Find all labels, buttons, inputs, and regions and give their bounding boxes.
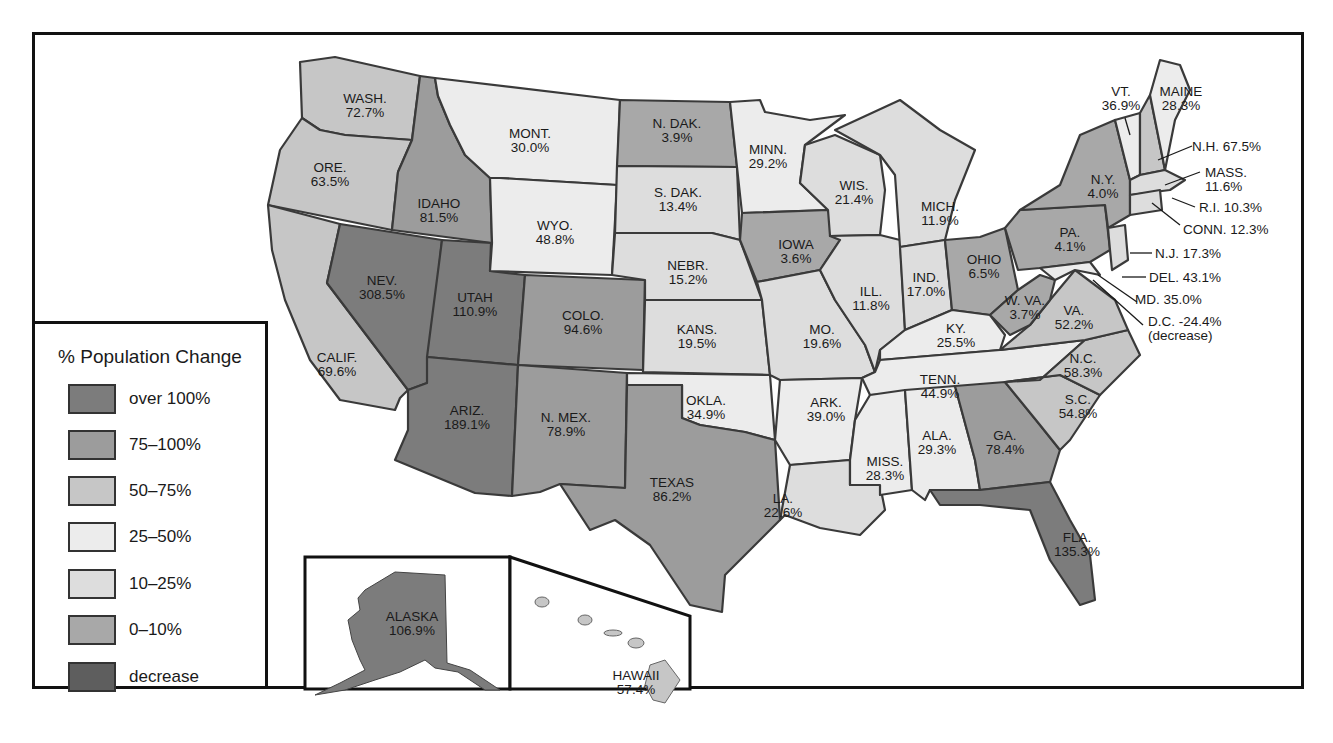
svg-text:30.0%: 30.0%	[511, 140, 549, 155]
svg-text:57.4%: 57.4%	[617, 682, 655, 697]
svg-text:29.2%: 29.2%	[749, 156, 787, 171]
legend-item-over-100: over 100%	[68, 382, 210, 416]
svg-text:HAWAII: HAWAII	[613, 668, 660, 683]
svg-text:R.I. 10.3%: R.I. 10.3%	[1199, 200, 1262, 215]
svg-text:72.7%: 72.7%	[346, 105, 384, 120]
legend-item-0-10: 0–10%	[68, 613, 182, 647]
svg-text:4.1%: 4.1%	[1055, 239, 1086, 254]
svg-text:MISS.: MISS.	[867, 454, 904, 469]
svg-text:VT.: VT.	[1111, 84, 1131, 99]
svg-text:CALIF.: CALIF.	[317, 350, 358, 365]
svg-text:86.2%: 86.2%	[653, 489, 691, 504]
svg-text:KY.: KY.	[946, 321, 966, 336]
svg-text:ALA.: ALA.	[922, 428, 951, 443]
svg-text:36.9%: 36.9%	[1102, 98, 1140, 113]
state-pa	[1005, 205, 1110, 270]
svg-text:ARK.: ARK.	[810, 395, 842, 410]
legend-item-10-25: 10–25%	[68, 567, 191, 601]
legend-item-decrease: decrease	[68, 660, 199, 694]
svg-text:3.9%: 3.9%	[662, 130, 693, 145]
svg-text:19.6%: 19.6%	[803, 336, 841, 351]
svg-text:N.J. 17.3%: N.J. 17.3%	[1155, 246, 1221, 261]
svg-text:11.9%: 11.9%	[921, 213, 958, 228]
svg-text:29.3%: 29.3%	[918, 442, 956, 457]
svg-text:189.1%: 189.1%	[444, 417, 490, 432]
svg-text:NEBR.: NEBR.	[667, 258, 708, 273]
svg-text:WASH.: WASH.	[343, 91, 387, 106]
svg-text:58.3%: 58.3%	[1064, 365, 1102, 380]
legend-swatch	[68, 522, 116, 552]
svg-text:D.C. -24.4%: D.C. -24.4%	[1148, 314, 1222, 329]
svg-text:28.3%: 28.3%	[866, 468, 904, 483]
svg-text:DEL. 43.1%: DEL. 43.1%	[1149, 270, 1221, 285]
svg-text:34.9%: 34.9%	[687, 407, 725, 422]
svg-text:ALASKA: ALASKA	[386, 609, 439, 624]
svg-text:(decrease): (decrease)	[1148, 328, 1213, 343]
svg-text:S.C.: S.C.	[1065, 392, 1091, 407]
svg-text:22.6%: 22.6%	[764, 505, 802, 520]
svg-text:WYO.: WYO.	[537, 218, 573, 233]
svg-text:WIS.: WIS.	[839, 178, 868, 193]
svg-text:78.9%: 78.9%	[547, 424, 585, 439]
svg-text:N. MEX.: N. MEX.	[541, 410, 591, 425]
svg-text:MAINE: MAINE	[1160, 84, 1203, 99]
svg-text:94.6%: 94.6%	[564, 322, 602, 337]
legend: % Population Change over 100% 75–100% 50…	[32, 321, 268, 689]
svg-text:LA.: LA.	[773, 491, 793, 506]
svg-text:28.3%: 28.3%	[1162, 98, 1200, 113]
svg-text:MONT.: MONT.	[509, 126, 551, 141]
legend-swatch	[68, 615, 116, 645]
svg-text:110.9%: 110.9%	[453, 304, 498, 319]
svg-text:39.0%: 39.0%	[807, 409, 845, 424]
legend-swatch	[68, 430, 116, 460]
state-conn	[1130, 190, 1162, 215]
svg-text:52.2%: 52.2%	[1055, 317, 1093, 332]
legend-swatch	[68, 662, 116, 692]
svg-text:63.5%: 63.5%	[311, 174, 349, 189]
svg-text:13.4%: 13.4%	[659, 199, 697, 214]
svg-text:19.5%: 19.5%	[678, 336, 716, 351]
svg-text:CONN. 12.3%: CONN. 12.3%	[1183, 222, 1269, 237]
legend-item-50-75: 50–75%	[68, 474, 191, 508]
svg-text:MICH.: MICH.	[921, 199, 959, 214]
svg-text:S. DAK.: S. DAK.	[654, 185, 702, 200]
svg-text:6.5%: 6.5%	[969, 266, 1000, 281]
svg-text:54.8%: 54.8%	[1059, 406, 1097, 421]
svg-text:IDAHO: IDAHO	[418, 196, 461, 211]
svg-text:25.5%: 25.5%	[937, 335, 975, 350]
svg-text:GA.: GA.	[993, 428, 1016, 443]
svg-text:OKLA.: OKLA.	[686, 393, 726, 408]
svg-text:VA.: VA.	[1064, 303, 1085, 318]
svg-text:106.9%: 106.9%	[389, 623, 435, 638]
svg-text:MASS.: MASS.	[1205, 165, 1247, 180]
svg-text:TEXAS: TEXAS	[650, 475, 694, 490]
legend-swatch	[68, 476, 116, 506]
svg-text:KANS.: KANS.	[677, 322, 718, 337]
svg-text:W. VA.: W. VA.	[1005, 293, 1045, 308]
legend-title: % Population Change	[35, 346, 265, 368]
svg-text:UTAH: UTAH	[457, 290, 493, 305]
svg-text:135.3%: 135.3%	[1054, 544, 1100, 559]
svg-text:ARIZ.: ARIZ.	[450, 403, 485, 418]
svg-text:21.4%: 21.4%	[835, 192, 873, 207]
svg-text:81.5%: 81.5%	[420, 210, 458, 225]
svg-text:3.6%: 3.6%	[781, 251, 812, 266]
svg-text:MINN.: MINN.	[749, 142, 787, 157]
svg-text:PA.: PA.	[1060, 225, 1081, 240]
legend-item-25-50: 25–50%	[68, 520, 191, 554]
legend-item-75-100: 75–100%	[68, 428, 201, 462]
svg-text:N. DAK.: N. DAK.	[653, 116, 702, 131]
svg-text:ILL.: ILL.	[860, 284, 883, 299]
svg-text:44.9%: 44.9%	[921, 386, 959, 401]
svg-text:ORE.: ORE.	[313, 160, 346, 175]
svg-text:3.7%: 3.7%	[1010, 307, 1041, 322]
svg-text:308.5%: 308.5%	[359, 287, 405, 302]
svg-text:MO.: MO.	[809, 322, 835, 337]
svg-text:48.8%: 48.8%	[536, 232, 574, 247]
svg-text:MD. 35.0%: MD. 35.0%	[1135, 292, 1202, 307]
svg-text:NEV.: NEV.	[367, 273, 397, 288]
legend-swatch	[68, 569, 116, 599]
legend-swatch	[68, 384, 116, 414]
svg-text:N.C.: N.C.	[1070, 351, 1097, 366]
svg-text:N.H. 67.5%: N.H. 67.5%	[1192, 139, 1261, 154]
